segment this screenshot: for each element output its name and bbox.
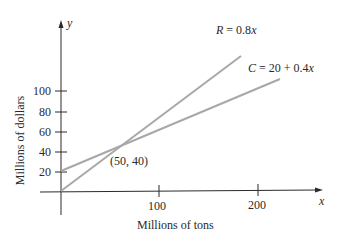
- x-axis: [40, 190, 316, 192]
- cost-eq-rest: = 20 + 0.4: [256, 61, 309, 75]
- y-tick-60: 60: [27, 126, 51, 138]
- y-tick-100: 100: [27, 85, 51, 97]
- y-axis-title: Millions of dollars: [13, 91, 28, 191]
- x-axis-title: Millions of tons: [137, 219, 214, 231]
- revenue-line: [61, 56, 241, 191]
- cost-equation-label: C = 20 + 0.4x: [248, 62, 314, 74]
- cost-var: C: [248, 61, 256, 75]
- y-tick-40: 40: [27, 146, 51, 158]
- y-axis-symbol: y: [67, 17, 72, 29]
- x-axis-symbol: x: [319, 195, 324, 207]
- x-axis-arrow-icon: [315, 188, 323, 193]
- revenue-eq-rest: = 0.8: [223, 23, 251, 37]
- revenue-equation-label: R = 0.8x: [216, 24, 256, 36]
- cost-eq-x: x: [309, 61, 314, 75]
- chart-canvas: [0, 0, 345, 243]
- cost-line: [61, 79, 280, 171]
- y-tick-20: 20: [27, 166, 51, 178]
- x-tick-100: 100: [148, 200, 166, 212]
- intersection-annotation: (50, 40): [110, 155, 148, 167]
- revenue-eq-x: x: [251, 23, 256, 37]
- y-axis-arrow-icon: [59, 20, 64, 28]
- x-tick-200: 200: [248, 199, 266, 211]
- y-tick-80: 80: [27, 106, 51, 118]
